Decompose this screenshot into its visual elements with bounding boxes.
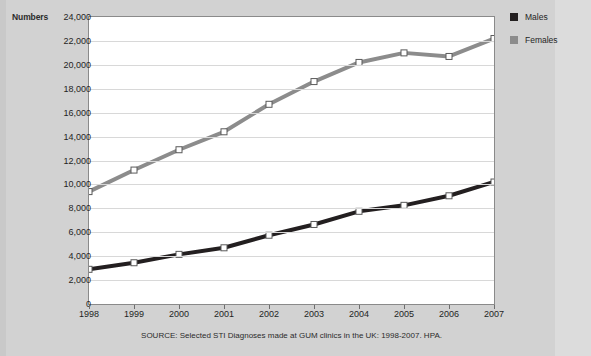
y-tick-label: 2,000: [47, 275, 91, 285]
data-point-marker: [311, 221, 317, 227]
data-point-marker: [176, 147, 182, 153]
x-tick-label: 1998: [67, 309, 111, 319]
series-line: [89, 39, 494, 192]
y-tick-label: 14,000: [47, 132, 91, 142]
legend-item-males: Males: [510, 12, 590, 22]
legend-label: Males: [525, 12, 548, 22]
data-point-marker: [311, 79, 317, 85]
x-tick-label: 1999: [112, 309, 156, 319]
gridline: [89, 41, 494, 42]
y-tick-label: 20,000: [47, 60, 91, 70]
gridline: [89, 137, 494, 138]
gridline: [89, 17, 494, 18]
x-tick-label: 2002: [247, 309, 291, 319]
data-point-marker: [131, 260, 137, 266]
x-tick-label: 2007: [472, 309, 516, 319]
y-tick-label: 22,000: [47, 36, 91, 46]
gridline: [89, 232, 494, 233]
series-males: [89, 179, 494, 272]
x-tick-label: 2006: [427, 309, 471, 319]
data-point-marker: [446, 193, 452, 199]
gridline: [89, 65, 494, 66]
gridline: [89, 256, 494, 257]
gridline: [89, 208, 494, 209]
x-tick-label: 2005: [382, 309, 426, 319]
y-tick-label: 8,000: [47, 203, 91, 213]
legend-item-females: Females: [510, 35, 590, 45]
y-tick-label: 12,000: [47, 156, 91, 166]
y-tick-label: 4,000: [47, 251, 91, 261]
data-point-marker: [401, 50, 407, 56]
y-tick-label: 0: [47, 299, 91, 309]
x-tick-label: 2001: [202, 309, 246, 319]
x-tick-label: 2003: [292, 309, 336, 319]
y-tick-label: 16,000: [47, 108, 91, 118]
gridline: [89, 113, 494, 114]
y-axis-title: Numbers: [12, 12, 48, 22]
data-point-marker: [131, 167, 137, 173]
line-chart-figure: Numbers 02,0004,0006,0008,00010,00012,00…: [0, 0, 591, 356]
x-tick-label: 2004: [337, 309, 381, 319]
gridline: [89, 280, 494, 281]
gridline: [89, 161, 494, 162]
legend-swatch-icon: [510, 36, 518, 44]
source-note: SOURCE: Selected STI Diagnoses made at G…: [88, 331, 495, 340]
gridline: [89, 89, 494, 90]
legend-swatch-icon: [510, 13, 518, 21]
y-tick-label: 18,000: [47, 84, 91, 94]
chart-legend: MalesFemales: [510, 12, 590, 58]
y-tick-label: 6,000: [47, 227, 91, 237]
data-point-marker: [446, 53, 452, 59]
gridline: [89, 184, 494, 185]
y-tick-label: 10,000: [47, 179, 91, 189]
data-point-marker: [89, 189, 92, 195]
x-tick-label: 2000: [157, 309, 201, 319]
data-point-marker: [89, 266, 92, 272]
plot-area: [88, 16, 495, 305]
series-females: [89, 36, 494, 195]
data-point-marker: [221, 129, 227, 135]
data-point-marker: [221, 245, 227, 251]
data-point-marker: [266, 101, 272, 107]
y-tick-label: 24,000: [47, 12, 91, 22]
legend-label: Females: [525, 35, 558, 45]
